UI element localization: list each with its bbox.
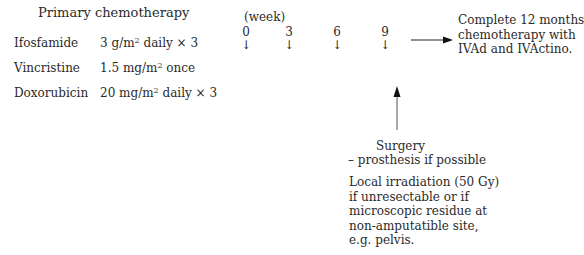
up-arrow-icon	[394, 86, 401, 130]
right-arrow-icon	[411, 37, 453, 44]
outcome-text: Complete 12 months chemotherapy with IVA…	[458, 13, 584, 57]
surgery-title: Surgery	[376, 139, 425, 153]
irradiation-text: Local irradiation (50 Gy) if unresectabl…	[349, 175, 499, 248]
surgery-subtitle: – prosthesis if possible	[348, 153, 486, 167]
